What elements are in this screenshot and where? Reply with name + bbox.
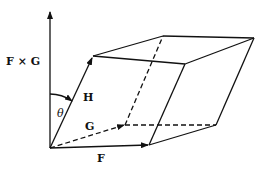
edge xyxy=(93,56,185,64)
edge xyxy=(216,38,254,125)
hidden-edge-vertical xyxy=(125,36,163,125)
edge xyxy=(163,36,254,38)
label-theta: θ xyxy=(57,108,64,119)
label-f: F xyxy=(97,153,105,164)
edge xyxy=(149,64,185,145)
edge xyxy=(149,125,216,145)
label-cross-product: F × G xyxy=(6,56,40,67)
parallelepiped-figure xyxy=(0,0,267,173)
theta-arc xyxy=(50,94,72,101)
label-h: H xyxy=(83,92,93,103)
diagram: F × G H θ G F xyxy=(0,0,267,173)
vector-f xyxy=(50,145,148,148)
edge xyxy=(93,36,163,56)
label-g: G xyxy=(85,121,94,132)
